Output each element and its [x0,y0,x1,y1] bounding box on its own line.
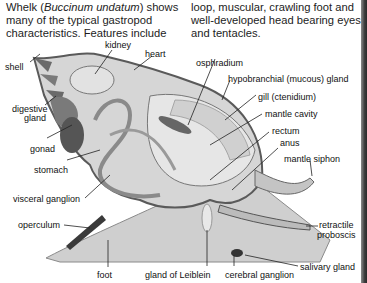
label-cerebral-ganglion: cerebral ganglion [225,270,294,280]
label-stomach: stomach [34,165,68,175]
whelk-anatomy-diagram [0,0,367,283]
label-hypobranchial-gland: hypobranchial (mucous) gland [228,74,349,84]
label-mantle-siphon: mantle siphon [284,154,340,164]
label-foot: foot [97,270,112,280]
label-operculum: operculum [18,220,60,230]
label-osphradium: osphradium [196,58,243,68]
label-digestive-gland-2: gland [24,113,46,123]
label-anus: anus [280,138,300,148]
label-rectum: rectum [272,126,300,136]
label-salivary-gland: salivary gland [300,262,355,272]
label-gill: gill (ctenidium) [258,92,316,102]
cerebral-ganglion-shape [231,249,243,257]
label-retractile-proboscis-2: proboscis [317,230,356,240]
label-gonad: gonad [30,144,55,154]
label-visceral-ganglion: visceral ganglion [13,194,80,204]
gland-of-leiblein-shape [202,204,212,232]
gonad-shape [60,117,84,153]
page-gutter [361,0,367,283]
label-kidney: kidney [105,40,131,50]
label-heart: heart [145,49,166,59]
label-gland-of-leiblein: gland of Leiblein [145,270,211,280]
kidney-shape [70,66,114,94]
label-retractile-proboscis-1: retractile [319,220,354,230]
label-shell: shell [5,62,24,72]
label-mantle-cavity: mantle cavity [265,109,318,119]
